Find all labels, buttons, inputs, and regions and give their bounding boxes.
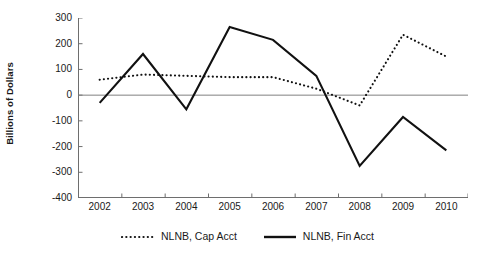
x-axis-tick-label: 2002: [80, 202, 120, 212]
x-axis-tick-labels: 200220032004200520062007200820092010: [0, 202, 495, 216]
x-axis-tick-label: 2006: [253, 202, 293, 212]
legend-item-fin-acct: NLNB, Fin Acct: [263, 231, 374, 242]
x-axis-tick-label: 2008: [340, 202, 380, 212]
chart-legend: NLNB, Cap Acct NLNB, Fin Acct: [0, 231, 495, 242]
x-axis-tick-label: 2010: [426, 202, 466, 212]
plot-area: [78, 18, 468, 198]
y-axis-title-text: Billions of Dollars: [4, 62, 15, 145]
x-axis-tick-label: 2009: [383, 202, 423, 212]
dotted-line-key-icon: [121, 232, 155, 242]
y-axis-tick-label: -300: [28, 167, 72, 177]
chart-svg: [78, 18, 468, 198]
x-axis-tick-label: 2003: [123, 202, 163, 212]
y-axis-tick-label: 0: [28, 90, 72, 100]
chart-figure: Billions of Dollars 3002001000-100-200-3…: [0, 0, 495, 257]
legend-item-cap-acct: NLNB, Cap Acct: [121, 231, 237, 242]
y-axis-tick-label: -100: [28, 116, 72, 126]
x-axis-ticks: [79, 194, 469, 198]
y-axis-tick-label: -200: [28, 142, 72, 152]
y-axis-tick-labels: 3002001000-100-200-300-400: [22, 0, 72, 257]
y-axis-title: Billions of Dollars: [2, 18, 16, 188]
solid-line-key-icon: [263, 232, 297, 242]
legend-label-fin-acct: NLNB, Fin Acct: [303, 231, 374, 242]
legend-label-cap-acct: NLNB, Cap Acct: [161, 231, 237, 242]
y-axis-tick-label: 300: [28, 13, 72, 23]
x-axis-tick-label: 2005: [210, 202, 250, 212]
x-axis-tick-label: 2007: [296, 202, 336, 212]
x-axis-tick-label: 2004: [166, 202, 206, 212]
y-axis-ticks: [79, 18, 83, 198]
y-axis-tick-label: 100: [28, 64, 72, 74]
y-axis-tick-label: 200: [28, 39, 72, 49]
